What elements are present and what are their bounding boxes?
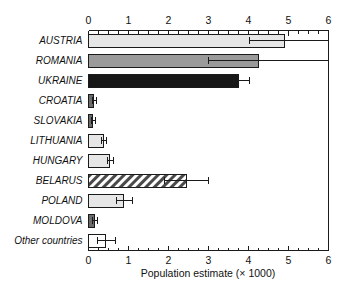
category-label: ROMANIA — [36, 55, 83, 66]
category-label: HUNGARY — [33, 155, 84, 166]
bottom-axis-tick-label: 4 — [246, 254, 252, 266]
bar — [89, 134, 104, 147]
bottom-axis-tick-label: 2 — [166, 254, 172, 266]
x-axis-title: Population estimate (× 1000) — [141, 267, 276, 279]
top-axis-tick-label: 2 — [166, 14, 172, 26]
category-label: CROATIA — [39, 95, 83, 106]
horizontal-bar-chart: 0123456 0123456 AUSTRIAROMANIAUKRAINECRO… — [0, 0, 342, 285]
category-label: SLOVAKIA — [34, 115, 83, 126]
category-label: BELARUS — [36, 175, 83, 186]
top-axis-tick-label: 5 — [286, 14, 292, 26]
category-label: MOLDOVA — [33, 215, 83, 226]
chart-canvas: 0123456 0123456 AUSTRIAROMANIAUKRAINECRO… — [0, 0, 342, 285]
top-axis-tick-label: 0 — [86, 14, 92, 26]
bar — [89, 74, 239, 87]
top-axis-tick-label: 3 — [206, 14, 212, 26]
category-label: Other countries — [14, 235, 82, 246]
bar — [89, 154, 110, 167]
category-label: POLAND — [41, 195, 82, 206]
bottom-axis-tick-label: 3 — [206, 254, 212, 266]
bottom-axis-tick-label: 0 — [86, 254, 92, 266]
bottom-axis-tick-label: 5 — [286, 254, 292, 266]
category-label: UKRAINE — [38, 75, 83, 86]
top-axis-tick-label: 4 — [246, 14, 252, 26]
bottom-axis-tick-label: 1 — [126, 254, 132, 266]
top-axis-tick-label: 1 — [126, 14, 132, 26]
bottom-axis-tick-label: 6 — [326, 254, 332, 266]
category-label: LITHUANIA — [30, 135, 83, 146]
top-axis-tick-label: 6 — [326, 14, 332, 26]
category-label: AUSTRIA — [38, 35, 83, 46]
